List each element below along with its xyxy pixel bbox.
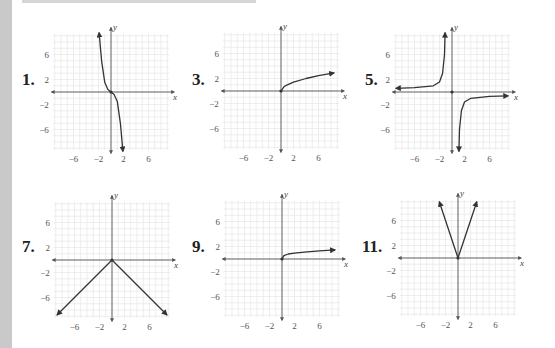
origin-point [280,257,283,260]
y-tick-label: 2 [215,242,220,252]
x-axis-label: x [173,260,178,270]
y-tick-label: 6 [44,50,49,60]
x-tick-label: 2 [292,321,297,331]
graph-problem-5: xy−6−22662−2−6 [377,17,527,167]
y-tick-label: 6 [385,50,390,60]
x-tick-label: 6 [493,320,498,330]
problem-number: 11. [362,237,382,257]
y-tick-label: −6 [380,125,390,135]
x-tick-label: −2 [441,320,451,330]
x-tick-label: −6 [410,154,420,164]
y-tick-label: −2 [380,100,390,110]
problem-number: 9. [192,237,205,257]
origin-point [279,89,282,92]
y-tick-label: 6 [45,218,50,228]
graph-problem-7: xy−6−22662−2−6 [37,185,187,335]
x-tick-label: 6 [317,321,322,331]
x-tick-label: −6 [240,321,250,331]
x-tick-label: 2 [291,153,296,163]
x-tick-label: −6 [70,322,80,332]
x-tick-label: 2 [468,320,473,330]
x-tick-label: 6 [147,322,152,332]
origin-point [450,90,453,93]
y-axis-label: y [453,22,458,32]
y-tick-label: 6 [214,49,219,59]
y-axis-label: y [282,21,287,31]
function-curve [282,250,335,259]
y-tick-label: 6 [391,216,396,226]
origin-point [109,90,112,93]
x-axis-label: x [172,92,177,102]
x-tick-label: −2 [94,154,104,164]
problem-number: 1. [22,70,35,90]
x-tick-label: 2 [121,154,126,164]
graph-problem-9: xy−6−22662−2−6 [207,184,357,334]
origin-point [110,258,113,261]
x-tick-label: 6 [316,153,321,163]
y-tick-label: −2 [209,99,219,109]
y-tick-label: 2 [45,243,50,253]
y-tick-label: 2 [214,74,219,84]
function-curve [281,73,334,91]
x-tick-label: 6 [487,154,492,164]
y-tick-label: −2 [210,267,220,277]
y-axis-label: y [112,22,117,32]
y-tick-label: 6 [215,217,220,227]
y-tick-label: −6 [210,292,220,302]
function-curve [459,96,508,152]
x-axis-label: x [513,92,518,102]
x-tick-label: −6 [416,320,426,330]
y-tick-label: −6 [40,293,50,303]
x-tick-label: −6 [239,153,249,163]
x-tick-label: −2 [435,154,445,164]
page-margin-bar [0,0,12,348]
x-tick-label: −2 [95,322,105,332]
y-tick-label: 2 [385,75,390,85]
y-tick-label: 2 [391,241,396,251]
x-tick-label: −6 [69,154,79,164]
y-tick-label: −2 [40,268,50,278]
y-axis-label: y [283,189,288,199]
x-tick-label: 2 [122,322,127,332]
y-axis-label: y [459,188,464,198]
problem-number: 5. [365,70,378,90]
problem-number: 7. [22,237,35,257]
y-tick-label: −6 [386,291,396,301]
graph-problem-3: xy−6−22662−2−6 [206,16,356,166]
graph-problem-1: xy−6−22662−2−6 [36,17,186,167]
x-axis-label: x [342,91,347,101]
x-axis-label: x [519,258,524,268]
y-tick-label: −2 [386,266,396,276]
y-tick-label: −2 [39,100,49,110]
y-tick-label: 2 [44,75,49,85]
graph-problem-11: xy−6−22662−2−6 [383,183,533,333]
x-tick-label: −2 [264,153,274,163]
y-tick-label: −6 [39,125,49,135]
problem-number: 3. [192,70,205,90]
top-rule [22,0,256,3]
x-tick-label: −2 [265,321,275,331]
y-axis-label: y [113,190,118,200]
x-axis-label: x [343,259,348,269]
x-tick-label: 2 [462,154,467,164]
origin-point [456,256,459,259]
x-tick-label: 6 [146,154,151,164]
y-tick-label: −6 [209,124,219,134]
